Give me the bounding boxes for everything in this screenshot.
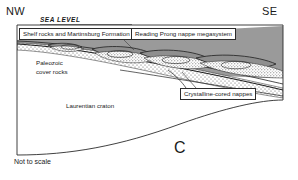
paleozoic-line-2: cover rocks [36, 68, 68, 75]
crystalline-nappes-label: Crystalline-cored nappes [180, 88, 256, 100]
sea-level-label: SEA LEVEL [40, 17, 80, 24]
orientation-label-se: SE [262, 6, 277, 17]
orientation-label-nw: NW [6, 6, 25, 17]
panel-letter: C [174, 140, 186, 156]
paleozoic-line-1: Paleozoic [36, 59, 63, 66]
paleozoic-cover-rocks-label: Paleozoic cover rocks [36, 59, 68, 77]
reading-prong-label: Reading Prong nappe megasystem [131, 28, 236, 40]
not-to-scale-note: Not to scale [14, 158, 51, 165]
laurentian-craton-label: Laurentian craton [66, 102, 114, 111]
shelf-rocks-label: Shelf rocks and Martinsburg Formation [19, 28, 134, 40]
